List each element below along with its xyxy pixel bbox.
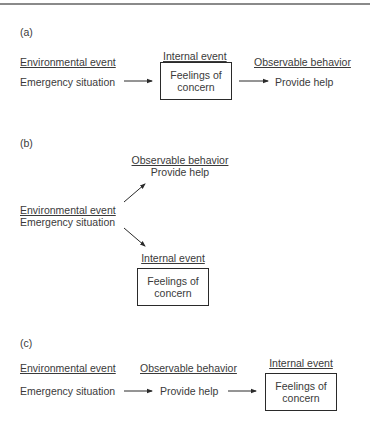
- header-observable-behavior: Observable behavior: [254, 56, 351, 68]
- header-observable-behavior: Observable behavior: [125, 154, 235, 166]
- panel-label-b: (b): [20, 137, 33, 149]
- box-line-2: concern: [282, 392, 319, 404]
- panel-label-c: (c): [20, 337, 32, 349]
- environmental-value: Emergency situation: [20, 76, 115, 88]
- internal-event-box: Feelings of concern: [137, 268, 209, 306]
- internal-event-box: Feelings of concern: [265, 373, 337, 411]
- internal-event-box: Feelings of concern: [160, 62, 232, 100]
- header-internal-event: Internal event: [265, 357, 337, 369]
- environmental-value: Emergency situation: [20, 216, 115, 228]
- box-line-1: Feelings of: [275, 380, 326, 392]
- header-internal-event: Internal event: [163, 50, 227, 62]
- header-environmental-event: Environmental event: [20, 362, 116, 374]
- header-environmental-event: Environmental event: [20, 204, 116, 216]
- observable-value: Provide help: [275, 76, 333, 88]
- environmental-value: Emergency situation: [20, 385, 115, 397]
- header-internal-event: Internal event: [137, 252, 209, 264]
- top-rule: [0, 3, 370, 5]
- observable-value: Provide help: [160, 385, 218, 397]
- panel-label-a: (a): [20, 26, 33, 38]
- header-environmental-event: Environmental event: [20, 56, 116, 68]
- box-line-1: Feelings of: [147, 275, 198, 287]
- observable-value: Provide help: [125, 166, 235, 178]
- box-line-1: Feelings of: [170, 69, 221, 81]
- arrow-down-right-icon: [124, 228, 145, 246]
- header-observable-behavior: Observable behavior: [140, 362, 237, 374]
- arrow-up-right-icon: [124, 184, 145, 202]
- box-line-2: concern: [154, 287, 191, 299]
- box-line-2: concern: [177, 81, 214, 93]
